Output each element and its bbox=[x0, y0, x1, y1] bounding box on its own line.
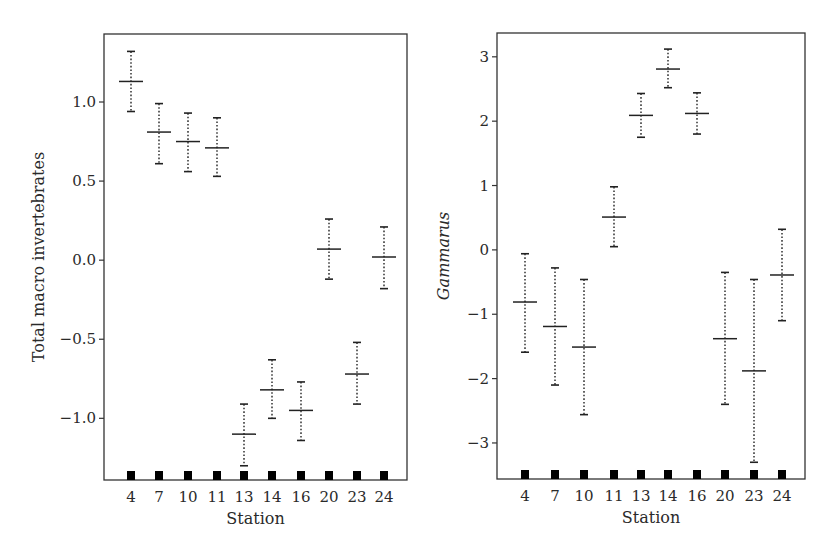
panel-total-macro-invertebrates: 1.00.50.0−0.5−1.0471011131416202324Stati… bbox=[29, 34, 407, 528]
x-tick-label: 7 bbox=[154, 488, 164, 506]
station-marker bbox=[240, 471, 248, 480]
error-bar bbox=[685, 93, 709, 134]
station-marker bbox=[380, 471, 388, 480]
error-bar bbox=[232, 404, 256, 466]
y-tick-label: −1.0 bbox=[60, 409, 96, 427]
y-tick-label: −1 bbox=[467, 305, 489, 323]
station-marker bbox=[353, 471, 361, 480]
x-tick-label: 14 bbox=[262, 488, 281, 506]
error-bar bbox=[345, 342, 369, 404]
x-tick-label: 23 bbox=[744, 487, 763, 505]
station-marker bbox=[268, 471, 276, 480]
x-tick-label: 10 bbox=[574, 487, 593, 505]
x-tick-label: 13 bbox=[631, 487, 650, 505]
station-marker bbox=[155, 471, 163, 480]
chart-canvas: 1.00.50.0−0.5−1.0471011131416202324Stati… bbox=[0, 0, 831, 559]
panel-gammarus: 3210−1−2−3471011131416202324StationGamma… bbox=[434, 33, 805, 527]
y-tick-label: −3 bbox=[467, 434, 489, 452]
error-bar bbox=[147, 104, 171, 164]
y-tick-label: 0.0 bbox=[72, 251, 96, 269]
error-bar bbox=[205, 118, 229, 177]
error-bar bbox=[543, 268, 567, 385]
station-marker bbox=[213, 471, 221, 480]
error-bar bbox=[119, 51, 143, 111]
error-bar bbox=[770, 229, 794, 320]
error-bar bbox=[372, 227, 396, 289]
x-tick-label: 14 bbox=[658, 487, 677, 505]
figure: 1.00.50.0−0.5−1.0471011131416202324Stati… bbox=[0, 0, 831, 559]
x-tick-label: 20 bbox=[715, 487, 734, 505]
y-tick-label: 0 bbox=[479, 241, 489, 259]
y-tick-label: 1.0 bbox=[72, 93, 96, 111]
y-tick-label: 0.5 bbox=[72, 172, 96, 190]
station-marker bbox=[664, 470, 672, 479]
y-tick-label: 1 bbox=[479, 177, 489, 195]
error-bar bbox=[602, 187, 626, 247]
x-tick-label: 13 bbox=[234, 488, 253, 506]
error-bar bbox=[572, 279, 596, 414]
x-tick-label: 7 bbox=[550, 487, 560, 505]
y-tick-label: 3 bbox=[479, 48, 489, 66]
x-tick-label: 24 bbox=[772, 487, 791, 505]
x-tick-label: 10 bbox=[178, 488, 197, 506]
error-bar bbox=[629, 93, 653, 137]
x-tick-label: 24 bbox=[374, 488, 393, 506]
x-tick-label: 11 bbox=[604, 487, 623, 505]
y-axis-title: Gammarus bbox=[434, 212, 453, 300]
station-marker bbox=[693, 470, 701, 479]
error-bar bbox=[656, 49, 680, 88]
error-bar bbox=[260, 360, 284, 419]
x-axis-title: Station bbox=[226, 509, 284, 528]
x-tick-label: 20 bbox=[319, 488, 338, 506]
y-tick-label: −0.5 bbox=[60, 330, 96, 348]
y-axis-title: Total macro invertebrates bbox=[29, 152, 48, 362]
station-marker bbox=[325, 471, 333, 480]
x-tick-label: 4 bbox=[520, 487, 530, 505]
x-axis-title: Station bbox=[622, 508, 680, 527]
x-tick-label: 4 bbox=[126, 488, 136, 506]
station-marker bbox=[297, 471, 305, 480]
y-tick-label: −2 bbox=[467, 370, 489, 388]
station-marker bbox=[580, 470, 588, 479]
error-bar bbox=[317, 219, 341, 279]
x-tick-label: 11 bbox=[207, 488, 226, 506]
error-bar bbox=[176, 113, 200, 172]
plot-frame bbox=[497, 33, 805, 479]
station-marker bbox=[184, 471, 192, 480]
plot-frame bbox=[104, 34, 407, 480]
error-bar bbox=[289, 382, 313, 441]
x-tick-label: 16 bbox=[687, 487, 706, 505]
station-marker bbox=[721, 470, 729, 479]
error-bar bbox=[513, 254, 537, 352]
x-tick-label: 23 bbox=[347, 488, 366, 506]
station-marker bbox=[778, 470, 786, 479]
station-marker bbox=[610, 470, 618, 479]
station-marker bbox=[521, 470, 529, 479]
station-marker bbox=[750, 470, 758, 479]
error-bar bbox=[713, 272, 737, 404]
station-marker bbox=[637, 470, 645, 479]
error-bar bbox=[742, 279, 766, 462]
station-marker bbox=[551, 470, 559, 479]
y-tick-label: 2 bbox=[479, 112, 489, 130]
station-marker bbox=[127, 471, 135, 480]
x-tick-label: 16 bbox=[291, 488, 310, 506]
